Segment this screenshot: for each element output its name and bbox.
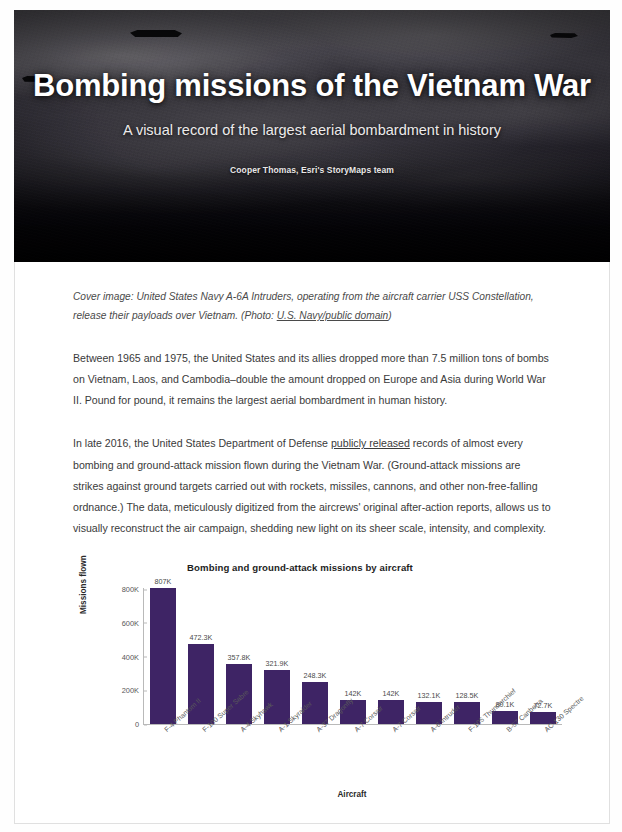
chart-bar-group[interactable]: 472.3K xyxy=(188,644,215,724)
chart-x-axis-label: Aircraft xyxy=(143,790,561,799)
chart-y-tick-label: 400K xyxy=(122,652,144,661)
hero-banner: Bombing missions of the Vietnam War A vi… xyxy=(14,10,610,262)
page-title: Bombing missions of the Vietnam War xyxy=(33,68,591,104)
missions-by-aircraft-chart: Bombing and ground-attack missions by ai… xyxy=(85,562,575,817)
hero-text-block: Bombing missions of the Vietnam War A vi… xyxy=(14,10,610,262)
chart-plot-area: 0200K400K600K800K 807K472.3K357.8K321.9K… xyxy=(143,588,562,725)
chart-bar-value-label: 357.8K xyxy=(228,653,251,662)
document-page: Bombing missions of the Vietnam War A vi… xyxy=(0,0,622,832)
chart-y-tick-label: 800K xyxy=(122,585,144,594)
author-byline: Cooper Thomas, Esri's StoryMaps team xyxy=(230,165,394,175)
chart-bar[interactable] xyxy=(188,644,215,724)
chart-bar[interactable] xyxy=(150,588,177,724)
chart-y-axis-label: Missions flown xyxy=(79,555,88,614)
paragraph-2-text-before-link: In late 2016, the United States Departme… xyxy=(73,437,331,449)
paragraph-1: Between 1965 and 1975, the United States… xyxy=(73,348,553,412)
caption-source-link[interactable]: U.S. Navy/public domain xyxy=(277,310,389,321)
paragraph-2: In late 2016, the United States Departme… xyxy=(73,433,553,539)
cover-image-caption: Cover image: United States Navy A-6A Int… xyxy=(73,288,553,326)
chart-bar-value-label: 321.9K xyxy=(266,659,289,668)
chart-bar-value-label: 472.3K xyxy=(190,633,213,642)
chart-bar-value-label: 128.5K xyxy=(456,691,479,700)
article-body: Cover image: United States Navy A-6A Int… xyxy=(14,262,610,824)
chart-bar-group[interactable]: 807K xyxy=(150,588,177,724)
chart-y-tick-label: 0 xyxy=(135,720,144,729)
chart-bar-value-label: 142K xyxy=(345,689,362,698)
chart-bar-value-label: 807K xyxy=(155,577,172,586)
chart-y-tick-label: 200K xyxy=(122,686,144,695)
chart-bar-value-label: 132.1K xyxy=(418,691,441,700)
chart-bar-value-label: 248.3K xyxy=(304,671,327,680)
chart-title: Bombing and ground-attack missions by ai… xyxy=(85,562,515,573)
page-subtitle: A visual record of the largest aerial bo… xyxy=(123,122,501,138)
caption-text-after-link: ) xyxy=(388,310,391,321)
chart-bar[interactable] xyxy=(264,670,291,724)
publicly-released-link[interactable]: publicly released xyxy=(331,437,410,449)
chart-y-tick-label: 600K xyxy=(122,618,144,627)
article-text-column: Cover image: United States Navy A-6A Int… xyxy=(73,288,553,561)
chart-bar-value-label: 142K xyxy=(383,689,400,698)
chart-bar-group[interactable]: 321.9K xyxy=(264,670,291,724)
paragraph-2-text-after-link: records of almost every bombing and grou… xyxy=(73,437,551,534)
